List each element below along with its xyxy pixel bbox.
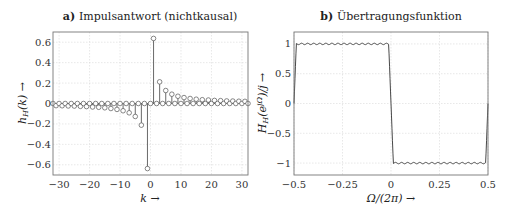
impulse-response-panel: a) Impulsantwort (nichtkausal) −30−20−10… bbox=[16, 10, 250, 205]
svg-text:−0.2: −0.2 bbox=[27, 118, 51, 129]
chart-canvas: a) Impulsantwort (nichtkausal) −30−20−10… bbox=[0, 0, 509, 213]
svg-text:1: 1 bbox=[285, 38, 291, 49]
panel-b-xlabel: Ω/(2π) → bbox=[366, 192, 415, 205]
svg-text:0.4: 0.4 bbox=[35, 57, 51, 68]
panel-a-ylabel: hH(k) → bbox=[16, 82, 30, 124]
panel-b-curve bbox=[294, 43, 488, 164]
panel-b-ylabel: HH(ejΩ)/j → bbox=[255, 73, 270, 135]
svg-text:−30: −30 bbox=[49, 179, 70, 190]
svg-text:0: 0 bbox=[285, 98, 291, 109]
svg-text:−0.6: −0.6 bbox=[27, 159, 51, 170]
panel-a-ticks: −30−20−100102030−0.6−0.4−0.200.20.40.6 bbox=[27, 37, 249, 190]
svg-text:0.6: 0.6 bbox=[35, 37, 51, 48]
svg-text:0.2: 0.2 bbox=[35, 78, 51, 89]
panel-a-title: a) Impulsantwort (nichtkausal) bbox=[63, 10, 237, 23]
svg-text:−0.4: −0.4 bbox=[27, 139, 51, 150]
svg-text:−0.25: −0.25 bbox=[327, 179, 358, 190]
svg-text:−1: −1 bbox=[276, 158, 291, 169]
transfer-function-panel: b) Übertragungsfunktion −0.5−0.2500.250.… bbox=[255, 9, 496, 205]
svg-text:10: 10 bbox=[175, 179, 188, 190]
svg-text:0.5: 0.5 bbox=[480, 179, 496, 190]
svg-text:0: 0 bbox=[45, 98, 51, 109]
svg-text:−20: −20 bbox=[79, 179, 100, 190]
panel-b-ticks: −0.5−0.2500.250.5−1−0.500.51 bbox=[267, 38, 496, 190]
svg-text:0: 0 bbox=[147, 179, 153, 190]
panel-b-title: b) Übertragungsfunktion bbox=[320, 9, 462, 23]
svg-text:0.25: 0.25 bbox=[428, 179, 450, 190]
svg-text:20: 20 bbox=[205, 179, 218, 190]
svg-text:0.5: 0.5 bbox=[275, 68, 291, 79]
svg-text:0: 0 bbox=[388, 179, 394, 190]
svg-text:−0.5: −0.5 bbox=[282, 179, 306, 190]
svg-text:−10: −10 bbox=[109, 179, 130, 190]
panel-a-xlabel: k → bbox=[140, 192, 159, 205]
svg-text:−0.5: −0.5 bbox=[267, 128, 291, 139]
svg-text:30: 30 bbox=[236, 179, 249, 190]
